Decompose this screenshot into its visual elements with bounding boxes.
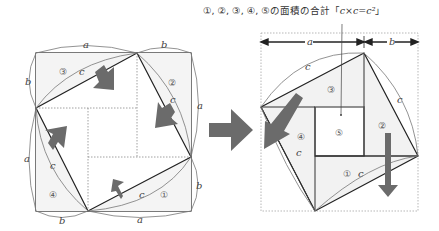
left-piece-4: ④ <box>49 190 57 200</box>
right-label-b: b <box>389 36 395 47</box>
left-piece-2: ② <box>168 78 176 88</box>
right-piece-2: ② <box>378 121 386 131</box>
left-label-c-4: c <box>50 160 56 171</box>
right-label-c-right: c <box>397 94 403 105</box>
left-label-a-top: a <box>83 39 89 50</box>
left-label-b-right: b <box>196 180 202 191</box>
right-piece-4: ④ <box>297 132 305 142</box>
left-piece-1: ① <box>160 190 168 200</box>
right-label-c-left: c <box>296 147 302 158</box>
right-label-c-top: c <box>305 61 311 72</box>
left-label-b-left: b <box>25 76 31 87</box>
left-label-b-top: b <box>161 39 167 50</box>
right-piece-5: ⑤ <box>335 128 343 138</box>
right-piece-3: ③ <box>327 85 335 95</box>
right-figure: a b c c c c <box>261 24 418 211</box>
right-piece-1: ① <box>343 169 351 179</box>
left-label-c-1: c <box>139 189 145 200</box>
right-label-a: a <box>307 36 313 47</box>
left-label-c-3: c <box>79 66 85 77</box>
left-label-c-2: c <box>170 94 176 105</box>
left-label-a-left: a <box>24 153 30 164</box>
left-label-a-bottom: a <box>137 214 143 225</box>
left-label-a-right: a <box>197 100 203 111</box>
transform-arrow-icon <box>209 109 253 151</box>
left-figure: a b a b a b a b c c c c ③ ② ① ④ <box>24 39 203 226</box>
pythagorean-proof-diagram: a b a b a b a b c c c c ③ ② ① ④ <box>0 0 439 231</box>
left-piece-3: ③ <box>59 67 67 77</box>
left-label-b-bottom: b <box>59 215 65 226</box>
right-label-c-bottom: c <box>358 168 364 179</box>
